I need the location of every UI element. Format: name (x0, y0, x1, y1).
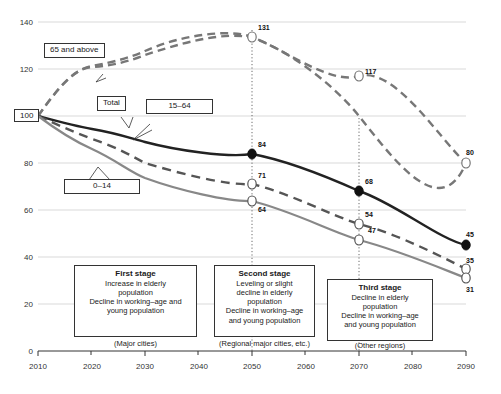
y-tick-60: 60 (24, 206, 33, 215)
marker-1564-2040 (248, 179, 256, 189)
callout-15-64: 15–64 (146, 99, 213, 114)
marker-total-2040 (248, 149, 256, 159)
callout-total-label: Total (103, 98, 120, 107)
label-35: 35 (466, 257, 474, 264)
stage-second-line-3: population (217, 297, 312, 306)
y-tick-20: 20 (24, 300, 33, 309)
stage-second-subtitle: (Regional major cities, etc.) (196, 339, 333, 348)
x-tick-2050: 2050 (243, 362, 261, 371)
stage-first-line-2: population (77, 288, 194, 297)
callout-15-64-label: 15–64 (168, 101, 190, 110)
callout-65-and-above: 65 and above (44, 43, 105, 58)
stage-first-line-4: young population (77, 306, 194, 315)
stage-second-title: Second stage (217, 269, 312, 278)
stage-box-third: Third stage Decline in elderly populatio… (327, 279, 433, 341)
x-tick-2010: 2010 (29, 362, 47, 371)
stage-box-first: First stage Increase in elderly populati… (74, 265, 197, 337)
marker-1564-2060 (355, 219, 363, 229)
label-54: 54 (365, 211, 373, 218)
label-84: 84 (258, 141, 266, 148)
marker-total-2090 (462, 240, 470, 250)
population-index-chart: 140 120 80 60 40 20 0 2010 2020 2030 204… (0, 0, 501, 394)
marker-total-2060 (355, 186, 363, 196)
stage-second-line-4: Decline in working–age (217, 306, 312, 315)
data-value-labels: 131 117 80 84 68 45 71 54 35 64 47 31 (258, 24, 474, 293)
label-71: 71 (258, 172, 266, 179)
y-tick-120: 120 (20, 65, 34, 74)
x-tick-2090: 2090 (457, 362, 475, 371)
stage-box-second: Second stage Leveling or slight decline … (214, 265, 315, 337)
data-point-markers (248, 32, 470, 283)
callout-0-14: 0–14 (64, 179, 140, 194)
marker-65above-2060 (355, 71, 363, 81)
y-tick-140: 140 (20, 18, 34, 27)
stage-first-subtitle: (Major cities) (74, 339, 197, 348)
x-tick-2020: 2020 (83, 362, 101, 371)
stage-third-line-4: and young population (330, 320, 430, 329)
label-47: 47 (368, 227, 376, 234)
stage-third-subtitle: (Other regions) (327, 341, 433, 350)
callout-total: Total (97, 96, 126, 111)
label-68: 68 (365, 178, 373, 185)
index-base-100-value: 100 (20, 111, 33, 120)
x-axis (38, 351, 466, 356)
stage-third-title: Third stage (330, 283, 430, 292)
stage-third-line-3: Decline in working–age (330, 311, 430, 320)
marker-014-2060 (355, 235, 363, 245)
y-tick-80: 80 (24, 159, 33, 168)
stage-second-line-2: decline in elderly (217, 288, 312, 297)
marker-014-2040 (248, 196, 256, 206)
index-base-100-box: 100 (14, 109, 39, 122)
label-31: 31 (466, 286, 474, 293)
stage-first-line-1: Increase in elderly (77, 279, 194, 288)
leader-total (121, 117, 133, 128)
label-64: 64 (258, 206, 266, 213)
marker-65above-2090 (462, 158, 470, 168)
callout-65-and-above-label: 65 and above (50, 45, 99, 54)
y-tick-40: 40 (24, 253, 33, 262)
stage-second-line-5: and young population (217, 316, 312, 325)
stage-first-line-3: Decline in working–age and (77, 297, 194, 306)
leader-65above (96, 74, 106, 82)
marker-65above-2040 (248, 32, 256, 42)
stage-second-line-1: Leveling or slight (217, 279, 312, 288)
y-tick-0: 0 (29, 347, 34, 356)
y-axis-labels: 140 120 80 60 40 20 0 (20, 18, 34, 356)
label-80: 80 (466, 149, 474, 156)
leader-1564 (133, 124, 152, 140)
x-axis-labels: 2010 2020 2030 2040 2050 2060 2070 2080 … (29, 362, 475, 371)
x-tick-2080: 2080 (404, 362, 422, 371)
label-45: 45 (466, 231, 474, 238)
stage-first-title: First stage (77, 269, 194, 278)
x-tick-2040: 2040 (190, 362, 208, 371)
x-tick-2030: 2030 (136, 362, 154, 371)
x-tick-2070: 2070 (350, 362, 368, 371)
stage-third-line-1: Decline in elderly (330, 293, 430, 302)
callout-0-14-label: 0–14 (93, 181, 111, 190)
marker-014-2090 (462, 273, 470, 283)
label-117: 117 (365, 68, 376, 75)
label-131: 131 (258, 24, 270, 31)
stage-third-line-2: population (330, 302, 430, 311)
x-tick-2060: 2060 (297, 362, 315, 371)
